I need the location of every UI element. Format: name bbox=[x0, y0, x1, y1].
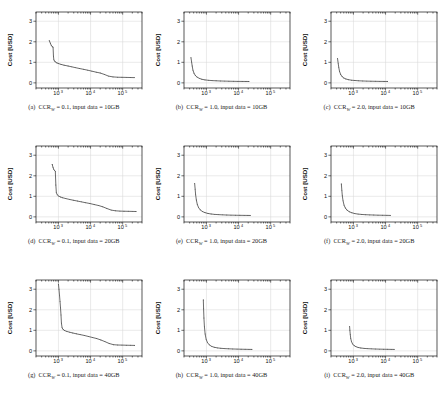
svg-text:3: 3 bbox=[177, 18, 180, 24]
subplot-caption-d: (d) CCRW = 0.1, input data = 20GB bbox=[0, 238, 148, 246]
svg-text:10: 10 bbox=[85, 90, 91, 96]
y-axis-label: Cost [USD] bbox=[6, 302, 13, 335]
y-axis-label: Cost [USD] bbox=[302, 168, 309, 201]
caption-tag: (g) bbox=[28, 371, 35, 378]
caption-metric: CCR bbox=[334, 103, 347, 110]
data-markers bbox=[190, 57, 249, 82]
caption-value: = 0.1, bbox=[57, 237, 72, 244]
gridlines bbox=[184, 12, 290, 88]
svg-text:10: 10 bbox=[201, 224, 207, 230]
svg-text:10: 10 bbox=[349, 224, 355, 230]
svg-text:10: 10 bbox=[85, 358, 91, 364]
caption-metric: CCR bbox=[39, 371, 52, 378]
data-curve bbox=[191, 58, 249, 82]
gridlines bbox=[184, 146, 290, 222]
caption-value: = 1.0, bbox=[204, 371, 219, 378]
gridlines bbox=[184, 280, 290, 356]
data-markers bbox=[58, 284, 135, 346]
svg-text:10: 10 bbox=[53, 358, 59, 364]
subplot-cell-g: 1031041050123Execution Time [s]Cost [USD… bbox=[0, 268, 148, 402]
svg-text:2: 2 bbox=[324, 173, 327, 179]
caption-metric: CCR bbox=[186, 237, 199, 244]
svg-text:4: 4 bbox=[93, 89, 96, 94]
svg-text:10: 10 bbox=[201, 90, 207, 96]
plot-panel-d: 1031041050123Execution Time [s]Cost [USD… bbox=[0, 134, 148, 234]
y-tick-labels: 0123 bbox=[177, 18, 180, 86]
caption-metric: CCR bbox=[186, 103, 199, 110]
data-markers bbox=[203, 299, 252, 349]
caption-metric: CCR bbox=[333, 371, 346, 378]
x-axis-label: Execution Time [s] bbox=[357, 98, 412, 100]
axis-ticks bbox=[329, 12, 438, 91]
caption-value: = 2.0, bbox=[351, 237, 366, 244]
svg-text:10: 10 bbox=[53, 90, 59, 96]
data-curve bbox=[58, 284, 134, 345]
caption-metric: CCR bbox=[39, 237, 52, 244]
subplot-cell-c: 1031041050123Execution Time [s]Cost [USD… bbox=[295, 0, 443, 134]
svg-text:10: 10 bbox=[118, 358, 124, 364]
svg-text:3: 3 bbox=[61, 223, 63, 228]
svg-text:3: 3 bbox=[29, 18, 32, 24]
y-tick-labels: 0123 bbox=[29, 152, 32, 220]
caption-data-size: input data = 20GB bbox=[73, 237, 120, 244]
plot-frame bbox=[36, 280, 142, 356]
axis-ticks bbox=[33, 146, 142, 225]
caption-tag: (d) bbox=[28, 237, 35, 244]
caption-data-size: input data = 10GB bbox=[73, 103, 120, 110]
svg-text:10: 10 bbox=[118, 224, 124, 230]
subplot-caption-a: (a) CCRW = 0.1, input data = 10GB bbox=[0, 104, 148, 112]
subplot-cell-f: 1031041050123Execution Time [s]Cost [USD… bbox=[295, 134, 443, 268]
axis-ticks bbox=[181, 12, 290, 91]
y-tick-labels: 0123 bbox=[324, 152, 327, 220]
x-axis-label: Execution Time [s] bbox=[62, 232, 117, 234]
svg-text:1: 1 bbox=[177, 59, 180, 65]
svg-text:10: 10 bbox=[413, 224, 419, 230]
svg-text:5: 5 bbox=[125, 89, 127, 94]
caption-tag: (b) bbox=[176, 103, 183, 110]
caption-tag: (c) bbox=[324, 103, 331, 110]
x-axis-label: Execution Time [s] bbox=[209, 366, 264, 368]
plot-frame bbox=[36, 146, 142, 222]
axis-ticks bbox=[33, 280, 142, 359]
svg-text:0: 0 bbox=[29, 80, 32, 86]
plot-panel-i: 1031041050123Execution Time [s]Cost [USD… bbox=[295, 268, 443, 368]
y-tick-labels: 0123 bbox=[177, 152, 180, 220]
caption-metric-subscript: W bbox=[51, 107, 55, 112]
svg-text:0: 0 bbox=[177, 348, 180, 354]
svg-text:3: 3 bbox=[29, 152, 32, 158]
svg-text:0: 0 bbox=[324, 214, 327, 220]
svg-text:4: 4 bbox=[241, 357, 244, 362]
svg-text:3: 3 bbox=[208, 357, 210, 362]
data-markers bbox=[52, 164, 137, 212]
svg-text:4: 4 bbox=[388, 357, 391, 362]
axis-ticks bbox=[181, 280, 290, 359]
data-markers bbox=[194, 183, 250, 216]
svg-text:3: 3 bbox=[208, 89, 210, 94]
axis-ticks bbox=[329, 280, 438, 359]
data-curve bbox=[194, 184, 249, 216]
data-markers bbox=[349, 326, 394, 350]
subplot-caption-f: (f) CCRW = 2.0, input data = 20GB bbox=[295, 238, 443, 246]
svg-text:2: 2 bbox=[29, 173, 32, 179]
caption-metric-subscript: W bbox=[346, 107, 350, 112]
svg-text:3: 3 bbox=[324, 18, 327, 24]
y-tick-labels: 0123 bbox=[29, 286, 32, 354]
caption-metric-subscript: W bbox=[199, 375, 203, 380]
svg-text:3: 3 bbox=[177, 152, 180, 158]
y-tick-labels: 0123 bbox=[29, 18, 32, 86]
svg-text:5: 5 bbox=[273, 357, 275, 362]
svg-text:2: 2 bbox=[29, 307, 32, 313]
svg-text:3: 3 bbox=[177, 286, 180, 292]
y-axis-label: Cost [USD] bbox=[302, 302, 309, 335]
svg-text:1: 1 bbox=[29, 327, 32, 333]
plot-frame bbox=[36, 12, 142, 88]
axis-ticks bbox=[181, 146, 290, 225]
svg-text:5: 5 bbox=[420, 357, 422, 362]
svg-text:10: 10 bbox=[349, 358, 355, 364]
data-markers bbox=[49, 40, 135, 78]
x-tick-labels: 103104105 bbox=[201, 89, 275, 97]
gridlines bbox=[36, 12, 142, 88]
svg-text:5: 5 bbox=[273, 223, 275, 228]
plot-frame bbox=[331, 146, 437, 222]
caption-metric: CCR bbox=[333, 237, 346, 244]
